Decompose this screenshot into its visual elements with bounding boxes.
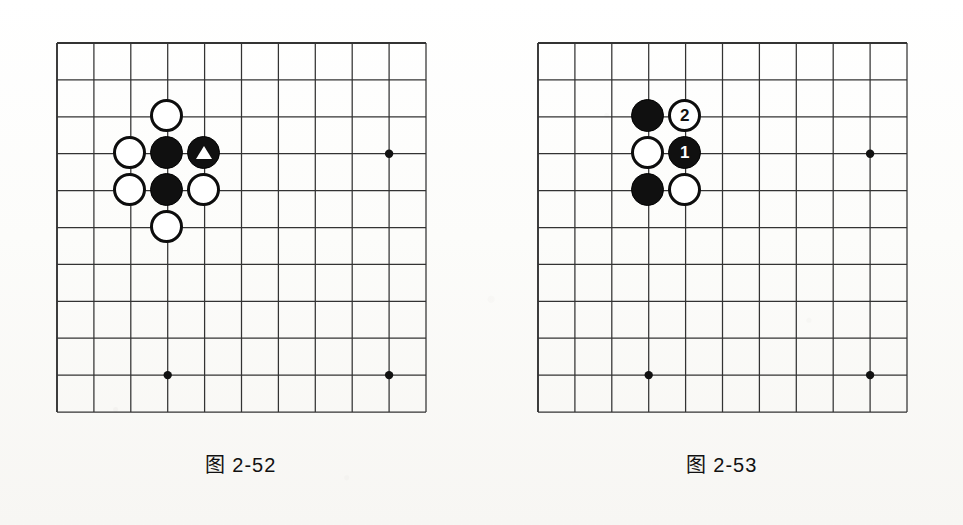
stone-white[interactable] bbox=[150, 210, 183, 243]
board-lines bbox=[537, 42, 906, 411]
star-point bbox=[866, 150, 874, 158]
figure-caption: 图 2-52 bbox=[56, 449, 425, 478]
star-point bbox=[645, 371, 653, 379]
board-grid bbox=[56, 42, 427, 413]
stone-white[interactable] bbox=[668, 173, 701, 206]
figure-caption: 图 2-53 bbox=[537, 449, 906, 478]
go-board-figure-2-53: 21 bbox=[537, 42, 906, 411]
move-number-label: 2 bbox=[680, 107, 689, 124]
star-point bbox=[385, 371, 393, 379]
triangle-marker-icon bbox=[196, 146, 212, 159]
star-point bbox=[866, 371, 874, 379]
stone-white[interactable] bbox=[187, 173, 220, 206]
star-point bbox=[164, 371, 172, 379]
move-number-label: 1 bbox=[680, 144, 689, 161]
star-point bbox=[385, 150, 393, 158]
go-board-figure-2-52 bbox=[56, 42, 425, 411]
board-grid bbox=[537, 42, 908, 413]
board-lines bbox=[56, 42, 425, 411]
